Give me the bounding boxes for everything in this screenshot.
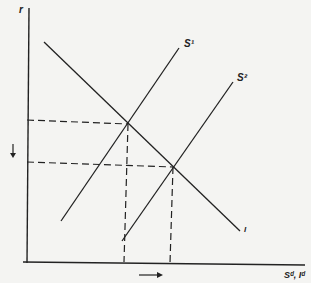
y-axis bbox=[27, 8, 29, 263]
down-arrow-icon bbox=[10, 144, 16, 158]
diagram-canvas bbox=[0, 0, 311, 283]
y-axis-label: r bbox=[19, 4, 23, 15]
guide-q2 bbox=[170, 167, 173, 263]
x-axis bbox=[23, 262, 305, 265]
supply-curve-1 bbox=[61, 48, 179, 221]
guide-q1 bbox=[124, 124, 128, 262]
s1-label: S¹ bbox=[184, 38, 194, 49]
guide-r1 bbox=[27, 120, 128, 124]
right-arrow-icon bbox=[139, 272, 163, 278]
i-label: I bbox=[244, 225, 246, 234]
s2-label: S² bbox=[237, 72, 247, 83]
x-axis-label: Sᵈ, Iᵈ bbox=[284, 270, 305, 280]
supply-curve-2 bbox=[122, 82, 233, 241]
